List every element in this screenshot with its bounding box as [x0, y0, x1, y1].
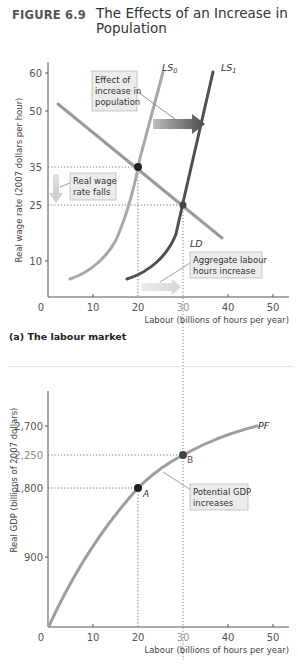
y-axis-label: Real wage rate (2007 dollars per hour): [14, 98, 24, 263]
shift-right-arrow-icon: [153, 114, 205, 134]
panel-divider: [8, 366, 293, 367]
x-tick-0: 0: [38, 302, 44, 313]
x-axis-label: Labour (billions of hours per year): [144, 315, 289, 325]
x-axis-label: Labour (billions of hours per year): [144, 645, 289, 655]
gdp-note-line2: increases: [193, 498, 234, 508]
point-b: [179, 451, 187, 459]
y-tick-60: 60: [29, 68, 42, 79]
x-tick-40: 40: [222, 302, 235, 313]
y-tick-25: 25: [29, 200, 42, 211]
gdp-note-line1: Potential GDP: [193, 487, 251, 497]
wage-note-line1: Real wage: [73, 176, 117, 186]
pf-curve: [49, 426, 257, 626]
x-tick-30: 30: [177, 632, 190, 643]
pf-label: PF: [258, 420, 270, 431]
hours-note-line2: hours increase: [193, 266, 255, 276]
x-tick-50: 50: [267, 632, 280, 643]
wage-note-line2: rate falls: [73, 187, 111, 197]
y-axis-label: Real GDP (billions of 2007 dollars): [9, 408, 19, 553]
potential-gdp-chart: 2,700 2,250 1,800 900 0 10 20 30 40 50 L…: [9, 391, 289, 655]
y-tick-50: 50: [29, 106, 42, 117]
down-arrow-icon: [49, 174, 63, 203]
x-tick-20: 20: [132, 632, 145, 643]
equilibrium-point-initial: [134, 163, 142, 171]
ls1-label: LS1: [221, 62, 236, 75]
equilibrium-point-new: [180, 202, 187, 209]
x-tick-0: 0: [38, 632, 44, 643]
hours-note-line1: Aggregate labour: [193, 255, 268, 265]
x-tick-10: 10: [87, 302, 100, 313]
y-tick-35: 35: [29, 162, 42, 173]
x-tick-20: 20: [132, 302, 145, 313]
ls0-label: LS0: [162, 62, 177, 75]
ld-label: LD: [190, 238, 203, 249]
gdp-leader-line: [163, 472, 191, 490]
y-tick-10: 10: [29, 256, 42, 267]
panel-label-labour-market: (a) The labour market: [9, 331, 126, 342]
point-a: [134, 484, 142, 492]
point-a-label: A: [142, 489, 149, 499]
x-tick-10: 10: [87, 632, 100, 643]
effect-note-line2: increase in: [95, 86, 141, 96]
x-tick-40: 40: [222, 632, 235, 643]
effect-note-line3: population: [95, 97, 140, 107]
x-tick-50: 50: [267, 302, 280, 313]
y-tick-900: 900: [24, 552, 43, 563]
labour-market-chart: 60 50 35 25 10 0 10 20 30 40 50 Labour (…: [14, 62, 289, 660]
point-b-label: B: [187, 455, 193, 465]
effect-note-line1: Effect of: [95, 75, 131, 85]
